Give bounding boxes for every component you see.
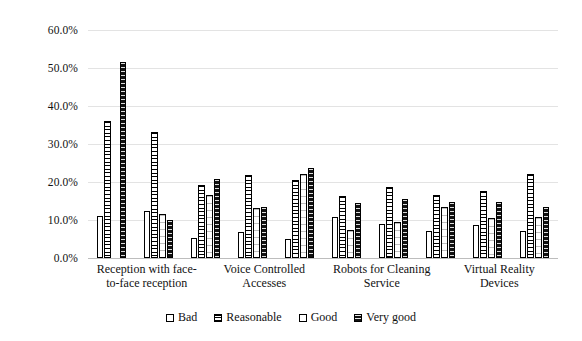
x-axis-label-line2: Devices [441, 276, 559, 290]
legend-label-bad: Bad [178, 310, 197, 325]
legend-label-reasonable: Reasonable [226, 310, 281, 325]
x-axis-label-line2: Service [323, 276, 441, 290]
bar-g4-very-good [261, 207, 268, 258]
y-axis-tick-label: 60.0% [48, 24, 78, 36]
bar-g7-bad [379, 224, 386, 258]
bar-g10-very-good [543, 207, 550, 258]
legend-label-good: Good [311, 310, 338, 325]
bar-g7-reasonable [386, 187, 393, 258]
x-axis-label-line1: Voice Controlled [206, 262, 324, 276]
bar-g10-reasonable [527, 174, 534, 258]
bar-g1-reasonable [104, 121, 111, 258]
x-axis-label-line2: to-face reception [88, 276, 206, 290]
x-axis-label-line1: Virtual Reality [441, 262, 559, 276]
bar-g10-good [535, 217, 542, 258]
legend-item-reasonable[interactable]: Reasonable [214, 310, 281, 325]
bar-g7-good [394, 222, 401, 258]
x-axis-label-line2: Accesses [206, 276, 324, 290]
x-axis-label-line1: Reception with face- [88, 262, 206, 276]
bar-g9-reasonable [480, 191, 487, 258]
bar-g7-very-good [402, 199, 409, 258]
legend-swatch-very-good-icon [354, 314, 362, 322]
bar-g8-good [441, 207, 448, 258]
bar-g9-good [488, 218, 495, 258]
x-axis-label-3: Robots for CleaningService [323, 262, 441, 290]
bar-g3-very-good [214, 179, 221, 258]
legend-item-very-good[interactable]: Very good [354, 310, 416, 325]
bar-g6-bad [332, 217, 339, 258]
y-axis-tick-label: 0.0% [54, 252, 78, 264]
x-axis-label-line1: Robots for Cleaning [323, 262, 441, 276]
bar-g1-bad [97, 216, 104, 258]
legend-label-very-good: Very good [366, 310, 416, 325]
x-axis-label-1: Reception with face-to-face reception [88, 262, 206, 290]
bar-g3-reasonable [198, 185, 205, 258]
legend-item-bad[interactable]: Bad [166, 310, 197, 325]
bar-g6-very-good [355, 203, 362, 258]
bar-g5-reasonable [292, 180, 299, 258]
y-axis: 60.0%50.0%40.0%30.0%20.0%10.0%0.0% [0, 30, 84, 258]
legend-swatch-reasonable-icon [214, 314, 222, 322]
cropped-title-strip [0, 0, 582, 8]
chart-legend: BadReasonableGoodVery good [0, 310, 582, 325]
y-axis-tick-label: 40.0% [48, 100, 78, 112]
legend-swatch-bad-icon [166, 314, 174, 322]
bar-g2-very-good [167, 220, 174, 258]
bar-g4-reasonable [245, 175, 252, 258]
y-axis-tick-label: 20.0% [48, 176, 78, 188]
bar-g6-reasonable [339, 196, 346, 258]
bar-g4-bad [238, 232, 245, 258]
y-axis-tick-label: 10.0% [48, 214, 78, 226]
bar-g8-bad [426, 231, 433, 258]
bar-g8-reasonable [433, 195, 440, 258]
bar-g6-good [347, 230, 354, 258]
bar-g5-bad [285, 239, 292, 258]
legend-swatch-good-icon [299, 314, 307, 322]
x-axis-label-4: Virtual RealityDevices [441, 262, 559, 290]
gridline-0 [88, 258, 558, 259]
legend-item-good[interactable]: Good [299, 310, 338, 325]
bar-g3-bad [191, 238, 198, 258]
y-axis-tick-label: 30.0% [48, 138, 78, 150]
bars-layer [88, 30, 558, 258]
bar-g9-very-good [496, 202, 503, 258]
bar-g2-good [159, 214, 166, 258]
bar-g2-bad [144, 211, 151, 258]
bar-g2-reasonable [151, 132, 158, 258]
bar-g5-good [300, 174, 307, 258]
bar-g8-very-good [449, 202, 456, 258]
grouped-bar-chart: 60.0%50.0%40.0%30.0%20.0%10.0%0.0% Recep… [0, 0, 582, 341]
bar-g3-good [206, 195, 213, 258]
x-axis-label-2: Voice ControlledAccesses [206, 262, 324, 290]
y-axis-tick-label: 50.0% [48, 62, 78, 74]
x-axis-category-labels: Reception with face-to-face receptionVoi… [88, 262, 558, 306]
bar-g4-good [253, 208, 260, 258]
bar-g1-very-good [120, 62, 127, 258]
bar-g5-very-good [308, 168, 315, 258]
bar-g10-bad [520, 231, 527, 258]
plot-area [88, 30, 558, 258]
bar-g9-bad [473, 225, 480, 258]
